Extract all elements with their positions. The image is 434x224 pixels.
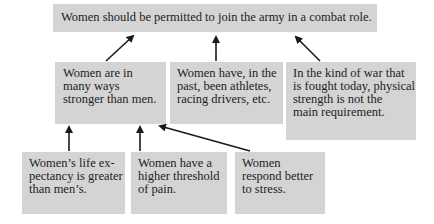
sub-premise-e-line-3: of pain. [138,183,220,196]
premise-a-line-3: stronger than men. [63,93,159,106]
premise-box-stronger: Women are in many ways stronger than men… [55,62,166,124]
conclusion-box: Women should be permitted to join the ar… [53,4,377,32]
sub-premise-box-life-expectancy: Women’s life ex- pectancy is greater tha… [22,152,125,214]
premise-box-athletes: Women have, in the past, been athletes, … [170,62,283,124]
premise-b-line-3: racing drivers, etc. [177,93,276,106]
premise-c-line-4: main requirement. [293,106,409,119]
arrow-a-to-conclusion [106,36,133,61]
conclusion-text: Women should be permitted to join the ar… [61,10,372,24]
sub-premise-f-line-3: to stress. [242,183,318,196]
premise-box-modern-war: In the kind of war that is fought today,… [286,62,416,140]
sub-premise-d-line-3: than men’s. [29,183,118,196]
sub-premise-box-stress: Women respond better to stress. [235,152,325,214]
arrow-f-to-a [160,126,250,151]
sub-premise-box-pain-threshold: Women have a higher threshold of pain. [131,152,227,214]
arrow-c-to-conclusion [296,37,320,61]
